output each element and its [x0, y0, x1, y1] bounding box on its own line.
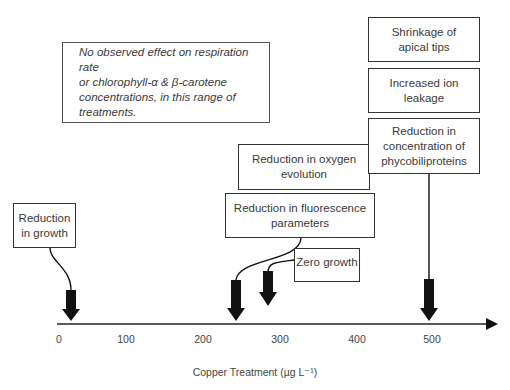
connector-zero-growth — [268, 260, 294, 272]
arrow-down-icon-280 — [259, 271, 277, 306]
tick-label-300: 300 — [271, 333, 289, 345]
effect-box-ion-leakage: Increased ion leakage — [368, 68, 480, 113]
arrow-down-icon-240 — [227, 280, 245, 321]
tick-label-400: 400 — [348, 333, 366, 345]
effect-box-oxygen-evolution: Reduction in oxygen evolution — [238, 144, 370, 190]
arrow-down-icon-500 — [420, 279, 438, 321]
connector-growth — [50, 248, 71, 292]
effect-box-reduction-in-growth: Reduction in growth — [13, 203, 76, 248]
tick-label-100: 100 — [117, 333, 135, 345]
arrow-down-icon-growth — [62, 290, 80, 321]
tick-label-500: 500 — [423, 333, 441, 345]
copper-effects-diagram: No observed effect on respiration rate o… — [0, 0, 510, 390]
effect-box-apical-tips: Shrinkage of apical tips — [368, 17, 480, 62]
effect-box-fluorescence-parameters: Reduction in fluorescence parameters — [225, 193, 375, 238]
effect-box-phycobiliproteins: Reduction in concentration of phycobilip… — [368, 118, 480, 174]
tick-label-200: 200 — [194, 333, 212, 345]
axis-arrowhead-icon — [486, 318, 498, 330]
x-axis-label: Copper Treatment (µg L⁻¹) — [0, 366, 510, 378]
tick-label-0: 0 — [56, 333, 62, 345]
no-effect-note-box: No observed effect on respiration rate o… — [62, 42, 270, 123]
effect-box-zero-growth: Zero growth — [294, 248, 360, 282]
